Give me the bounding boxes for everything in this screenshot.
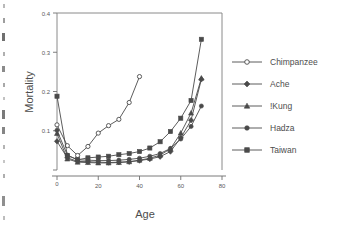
data-point — [117, 117, 121, 121]
series-line — [57, 39, 201, 159]
legend-swatch-marker — [245, 60, 250, 65]
data-point — [148, 146, 152, 150]
data-point — [168, 146, 172, 150]
x-tick-label: 60 — [177, 183, 184, 189]
chart-canvas: 0.4 0.3 0.2 0.1 0 20 40 60 80 Mortality … — [0, 0, 343, 235]
data-point — [189, 124, 193, 128]
data-point — [199, 37, 203, 41]
data-point — [168, 129, 172, 133]
series-layer — [54, 37, 204, 165]
data-point — [158, 151, 162, 155]
y-tick-label: 0.1 — [42, 128, 51, 134]
series-taiwan — [55, 37, 204, 162]
data-point — [137, 149, 141, 153]
y-axis-title: Mortality — [23, 71, 35, 113]
legend-swatch-marker — [244, 81, 250, 87]
data-point — [199, 104, 203, 108]
data-point — [106, 154, 110, 158]
data-point — [199, 76, 204, 81]
x-tick-labels: 20 40 60 80 — [95, 183, 226, 189]
x-axis-title: Age — [135, 208, 155, 220]
legend-item-label: Hadza — [270, 123, 295, 133]
data-point — [55, 94, 59, 98]
data-point — [158, 140, 162, 144]
data-point — [76, 158, 80, 162]
x-tick-label: 40 — [136, 183, 143, 189]
y-tick-label: 0.3 — [42, 50, 51, 56]
data-point — [54, 139, 59, 144]
data-point — [148, 154, 152, 158]
data-point — [96, 155, 100, 159]
legend-item-chimpanzee[interactable]: Chimpanzee — [232, 57, 318, 67]
legend-item-label: !Kung — [270, 101, 292, 111]
data-point — [137, 74, 141, 78]
data-point — [86, 156, 90, 160]
y-tick-label: 0.2 — [42, 89, 51, 95]
data-point — [55, 128, 59, 132]
legend-item-label: Taiwan — [270, 145, 297, 155]
data-point — [179, 137, 183, 141]
data-point — [179, 116, 183, 120]
data-point — [178, 130, 183, 135]
legend-item-label: Chimpanzee — [270, 57, 318, 67]
data-point — [106, 158, 110, 162]
x-tick-label: 80 — [219, 183, 226, 189]
series-chimpanzee — [55, 74, 142, 157]
series-line — [57, 79, 201, 162]
data-point — [117, 153, 121, 157]
y-tick-label: 0 — [55, 181, 59, 187]
data-point — [117, 158, 121, 162]
data-point — [127, 100, 131, 104]
legend-item-label: Ache — [270, 79, 290, 89]
data-point — [137, 156, 141, 160]
legend-item-hadza[interactable]: Hadza — [232, 123, 295, 133]
mortality-by-age-figure: 0.4 0.3 0.2 0.1 0 20 40 60 80 Mortality … — [0, 0, 343, 235]
data-point — [65, 153, 69, 157]
x-axis-ticks — [57, 176, 222, 180]
data-point — [127, 151, 131, 155]
data-point — [76, 153, 80, 157]
legend-item--kung[interactable]: !Kung — [232, 101, 292, 111]
series-line — [57, 77, 140, 156]
data-point — [86, 144, 90, 148]
data-point — [55, 123, 59, 127]
y-axis-ticks — [53, 13, 57, 170]
data-point — [127, 157, 131, 161]
data-point — [189, 98, 193, 102]
data-point — [96, 131, 100, 135]
x-tick-label: 20 — [95, 183, 102, 189]
data-point — [106, 124, 110, 128]
legend-swatch-marker — [245, 126, 250, 131]
legend-item-ache[interactable]: Ache — [232, 79, 290, 89]
legend-item-taiwan[interactable]: Taiwan — [232, 145, 297, 155]
legend-swatch-marker — [245, 148, 250, 153]
chart-legend: ChimpanzeeAche!KungHadzaTaiwan — [232, 57, 318, 155]
y-tick-label: 0.4 — [42, 11, 51, 17]
